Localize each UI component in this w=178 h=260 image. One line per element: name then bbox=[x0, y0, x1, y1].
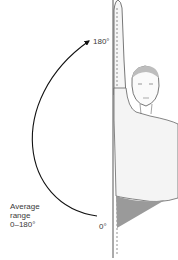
range-line-1: Average bbox=[10, 202, 40, 211]
average-range-label: Average range 0–180° bbox=[10, 202, 40, 229]
min-angle-label: 0° bbox=[99, 222, 107, 231]
range-line-3: 0–180° bbox=[10, 220, 40, 229]
range-line-2: range bbox=[10, 211, 40, 220]
head bbox=[132, 66, 159, 114]
max-angle-label: 180° bbox=[93, 37, 110, 46]
range-arc bbox=[32, 41, 97, 216]
